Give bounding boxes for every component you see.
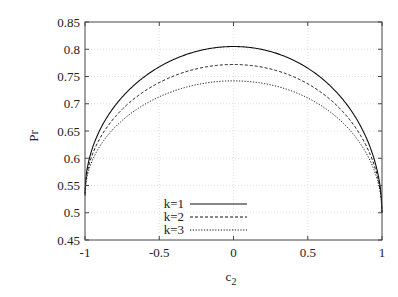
x-tick-label: 1 <box>379 245 386 260</box>
y-tick-label: 0.5 <box>64 205 80 220</box>
legend: k=1k=2k=3 <box>164 196 247 237</box>
y-axis-label: Pr <box>26 130 41 142</box>
x-tick-label: 0.5 <box>300 245 316 260</box>
x-axis-ticks: -1-0.500.51 <box>80 22 386 260</box>
y-tick-label: 0.45 <box>57 233 80 248</box>
y-tick-label: 0.85 <box>57 15 80 30</box>
grid-lines <box>85 22 382 240</box>
y-tick-label: 0.6 <box>64 151 81 166</box>
x-tick-label: -1 <box>80 245 91 260</box>
y-tick-label: 0.75 <box>57 69 80 84</box>
y-tick-label: 0.8 <box>64 42 80 57</box>
y-tick-label: 0.65 <box>57 124 80 139</box>
line-chart: -1-0.500.51 0.450.50.550.60.650.70.750.8… <box>0 0 398 297</box>
y-tick-label: 0.55 <box>57 178 80 193</box>
x-axis-label: c2 <box>226 269 237 287</box>
x-tick-label: 0 <box>230 245 237 260</box>
legend-label: k=3 <box>164 222 184 237</box>
y-tick-label: 0.7 <box>64 96 81 111</box>
y-axis-ticks: 0.450.50.550.60.650.70.750.80.85 <box>57 15 382 248</box>
x-tick-label: -0.5 <box>149 245 170 260</box>
